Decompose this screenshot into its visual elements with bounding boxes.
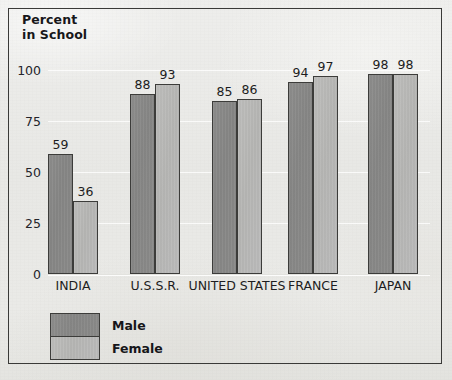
bar-female-japan: 98 [393,74,418,274]
category-label-u-s-s-r-: U.S.S.R. [130,278,179,293]
bar-value-label: 97 [318,59,334,74]
bar-male-u-s-s-r-: 88 [130,94,155,274]
y-tick-label-100: 100 [17,63,41,78]
bar-value-label: 36 [78,184,94,199]
bar-female-france: 97 [313,76,338,274]
category-label-united-states: UNITED STATES [189,278,286,293]
x-axis-baseline [48,274,430,275]
bar-female-india: 36 [73,201,98,274]
bar-value-label: 98 [373,57,389,72]
bar-female-united-states: 86 [237,99,262,274]
bar-male-united-states: 85 [212,101,237,274]
bar-value-label: 93 [160,67,176,82]
y-tick-label-50: 50 [25,165,41,180]
legend-swatch-box [50,313,100,360]
chart-figure: Percent in School 0255075100 59368893858… [0,0,452,380]
bar-value-label: 59 [53,137,69,152]
bar-female-u-s-s-r-: 93 [155,84,180,274]
legend-swatch-female [51,337,99,360]
bar-value-label: 86 [242,82,258,97]
bar-male-france: 94 [288,82,313,274]
y-tick-label-75: 75 [25,114,41,129]
category-label-india: INDIA [56,278,91,293]
category-label-japan: JAPAN [375,278,412,293]
bar-value-label: 98 [398,57,414,72]
legend-swatch-male [51,314,99,337]
plot-area: 0255075100 59368893858694979898 INDIAU.S… [48,70,430,274]
bar-value-label: 88 [135,77,151,92]
bar-value-label: 85 [217,84,233,99]
bar-male-japan: 98 [368,74,393,274]
bar-value-label: 94 [293,65,309,80]
y-tick-label-25: 25 [25,216,41,231]
legend-label-female: Female [112,341,163,356]
bar-male-india: 59 [48,154,73,274]
page-title: Percent in School [22,12,87,42]
y-tick-label-0: 0 [33,267,41,282]
category-label-france: FRANCE [288,278,338,293]
legend-label-male: Male [112,318,146,333]
